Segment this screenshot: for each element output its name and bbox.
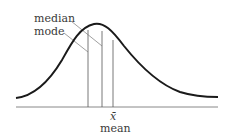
mode-label: mode [34, 25, 65, 38]
median-label: median [34, 12, 75, 25]
mean-label: mean [100, 122, 131, 135]
skewed-distribution-diagram: median mode x̄ mean [0, 0, 234, 137]
